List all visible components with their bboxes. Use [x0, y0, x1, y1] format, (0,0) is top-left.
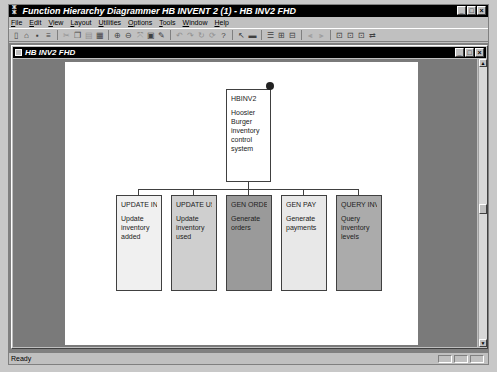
- function-id: UPDATE IN: [121, 200, 157, 209]
- toolbar-separator: [232, 30, 233, 40]
- diagram-window: HB INV2 FHD _ □ × HBINV2 Hoosier Burger …: [11, 45, 488, 349]
- menu-utilities[interactable]: Utilities: [98, 17, 121, 28]
- print-icon[interactable]: ≡: [44, 31, 53, 40]
- connector-line: [248, 182, 249, 189]
- vertical-scrollbar[interactable]: ▲ ▼: [478, 59, 487, 347]
- link-icon[interactable]: ⇄: [368, 31, 377, 40]
- layout-icon[interactable]: ☰: [266, 31, 275, 40]
- function-id: UPDATE US: [176, 200, 212, 209]
- child-maximize-button[interactable]: □: [465, 48, 474, 57]
- function-id: HBINV2: [231, 94, 266, 103]
- menu-file[interactable]: File: [11, 17, 22, 28]
- help-icon[interactable]: ?: [219, 31, 228, 40]
- undo-icon[interactable]: ↶: [175, 31, 184, 40]
- function-node[interactable]: GEN ORDE Generate orders: [226, 195, 272, 291]
- function-node[interactable]: UPDATE US Update inventory used: [171, 195, 217, 291]
- function-id: GEN PAY: [286, 200, 322, 209]
- function-description: Update inventory added: [121, 214, 157, 241]
- title-bar: ⁑ Function Hierarchy Diagrammer HB INVEN…: [9, 5, 488, 17]
- menu-edit[interactable]: Edit: [29, 17, 41, 28]
- align-left-icon[interactable]: ⫷: [306, 31, 315, 40]
- diagram-page[interactable]: HBINV2 Hoosier Burger inventory control …: [65, 62, 418, 345]
- menu-bar: File Edit View Layout Utilities Options …: [9, 17, 488, 28]
- function-id: GEN ORDE: [231, 200, 267, 209]
- child-close-button[interactable]: ×: [475, 48, 484, 57]
- function-node[interactable]: UPDATE IN Update inventory added: [116, 195, 162, 291]
- menu-view[interactable]: View: [48, 17, 63, 28]
- diagram-window-title-bar: HB INV2 FHD _ □ ×: [13, 47, 486, 58]
- menu-window[interactable]: Window: [183, 17, 208, 28]
- status-pane: [454, 355, 468, 363]
- expand-icon[interactable]: ⊞: [277, 31, 286, 40]
- scroll-up-arrow-icon[interactable]: ▲: [479, 59, 487, 67]
- function-node[interactable]: QUERY INV Query inventory levels: [336, 195, 382, 291]
- scroll-thumb[interactable]: [479, 204, 487, 214]
- align-right-icon[interactable]: ⫸: [317, 31, 326, 40]
- function-node-root[interactable]: HBINV2 Hoosier Burger inventory control …: [226, 89, 271, 182]
- selection-handle[interactable]: [266, 82, 274, 90]
- new-icon[interactable]: ▯: [11, 31, 20, 40]
- function-id: QUERY INV: [341, 200, 377, 209]
- toolbar-separator: [108, 30, 109, 40]
- module-icon[interactable]: ⊡: [357, 31, 366, 40]
- function-description: Query inventory levels: [341, 214, 377, 241]
- function-description: Generate payments: [286, 214, 322, 232]
- window-title: Function Hierarchy Diagrammer HB INVENT …: [23, 6, 297, 16]
- toolbar-separator: [261, 30, 262, 40]
- diagram-canvas[interactable]: HBINV2 Hoosier Burger inventory control …: [13, 59, 477, 347]
- toolbar: ▯ ⌂ ▪ ≡ ✂ ❐ ▤ ▦ ⊕ ⊖ ⤧ ▣ ✎ ↶ ↷ ↻ ⟳ ? ↖ ▬ …: [9, 28, 488, 42]
- status-bar: Ready: [9, 352, 488, 364]
- edit-icon[interactable]: ✎: [157, 31, 166, 40]
- refresh-icon[interactable]: ⟳: [208, 31, 217, 40]
- maximize-button[interactable]: □: [467, 6, 476, 15]
- scroll-down-arrow-icon[interactable]: ▼: [479, 339, 487, 347]
- function-description: Update inventory used: [176, 214, 212, 241]
- application-window: ⁑ Function Hierarchy Diagrammer HB INVEN…: [8, 4, 489, 365]
- open-icon[interactable]: ⌂: [22, 31, 31, 40]
- save-icon[interactable]: ▪: [33, 31, 42, 40]
- mdi-workspace: HB INV2 FHD _ □ × HBINV2 Hoosier Burger …: [9, 43, 488, 353]
- diagram-icon[interactable]: ▦: [95, 31, 104, 40]
- zoom-in-icon[interactable]: ⊕: [113, 31, 122, 40]
- requery-icon[interactable]: ↻: [197, 31, 206, 40]
- app-icon: ⁑: [12, 5, 20, 17]
- menu-tools[interactable]: Tools: [159, 17, 175, 28]
- properties-icon[interactable]: ▣: [146, 31, 155, 40]
- status-text: Ready: [11, 355, 31, 362]
- cut-icon[interactable]: ✂: [62, 31, 71, 40]
- child-minimize-button[interactable]: _: [455, 48, 464, 57]
- document-icon: [15, 49, 22, 56]
- status-pane: [470, 355, 484, 363]
- toolbar-separator: [301, 30, 302, 40]
- redo-icon[interactable]: ↷: [186, 31, 195, 40]
- toolbar-separator: [170, 30, 171, 40]
- select-pointer-icon[interactable]: ↖: [237, 31, 246, 40]
- status-pane: [438, 355, 452, 363]
- entity-usage-icon[interactable]: ⊡: [335, 31, 344, 40]
- menu-options[interactable]: Options: [128, 17, 152, 28]
- fit-icon[interactable]: ⤧: [135, 31, 144, 40]
- function-node[interactable]: GEN PAY Generate payments: [281, 195, 327, 291]
- copy-icon[interactable]: ❐: [73, 31, 82, 40]
- collapse-icon[interactable]: ⊟: [288, 31, 297, 40]
- minimize-button[interactable]: _: [457, 6, 466, 15]
- attribute-usage-icon[interactable]: ⊡: [346, 31, 355, 40]
- diagram-window-title: HB INV2 FHD: [25, 48, 75, 57]
- zoom-out-icon[interactable]: ⊖: [124, 31, 133, 40]
- menu-help[interactable]: Help: [214, 17, 228, 28]
- create-function-icon[interactable]: ▬: [248, 31, 257, 40]
- menu-layout[interactable]: Layout: [70, 17, 91, 28]
- toolbar-separator: [330, 30, 331, 40]
- paste-icon[interactable]: ▤: [84, 31, 93, 40]
- close-button[interactable]: ×: [477, 6, 486, 15]
- function-description: Hoosier Burger inventory control system: [231, 108, 266, 153]
- function-description: Generate orders: [231, 214, 267, 232]
- toolbar-separator: [57, 30, 58, 40]
